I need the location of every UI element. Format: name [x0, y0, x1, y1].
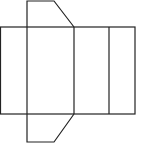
top-flap: [27, 1, 74, 27]
prism-net-diagram: [0, 0, 146, 153]
main-strip: [1, 27, 136, 114]
bottom-flap: [27, 114, 74, 142]
